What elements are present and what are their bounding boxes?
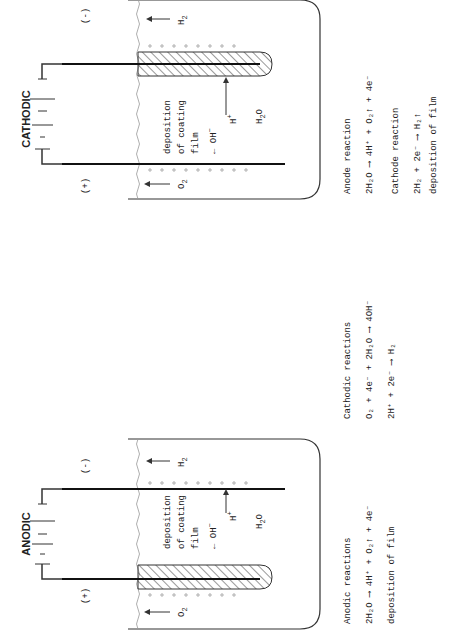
anodic-h2-label: H2 — [177, 457, 189, 467]
cathodic-reaction-1: O₂ + 4e⁻ + 2H₂O ⟶ 4OH⁻ — [365, 300, 375, 419]
anodic-minus-label: (-) — [81, 458, 91, 474]
electrodeposition-diagram: ANODIC (+) (-) — [0, 0, 460, 639]
cathodic-o2-label: O2 — [177, 179, 189, 189]
cathodic-deposition-line3: film — [191, 132, 201, 154]
anodic-water-label: H2O — [255, 514, 267, 529]
cathodic-hplus-label: H+ — [226, 114, 239, 124]
cathodic-cell: CATHODIC (+) (-) — [20, 0, 439, 199]
anodic-hplus-label: H+ — [226, 511, 239, 521]
anodic-reaction-1: 2H₂O ⟶ 4H⁺ + O₂↑ + 4e⁻ — [365, 505, 375, 624]
anodic-liquid-surface — [137, 439, 140, 629]
anodic-oh-label: ← OH− — [206, 523, 219, 549]
anodic-title: ANODIC — [20, 512, 32, 555]
cathodic-deposition-line2: of coating — [177, 100, 187, 154]
cathodic-battery-icon — [30, 64, 62, 164]
anodic-reaction-2: deposition of film — [387, 527, 397, 624]
cathode-reaction-title: Cathode reaction — [391, 108, 401, 194]
anodic-deposition-line3: film — [191, 527, 201, 549]
anodic-tank — [128, 439, 320, 629]
anodic-deposition-line1: deposition — [163, 495, 173, 549]
cathode-reaction-1: 2H₂ + 2e⁻ ⟶ H₂↑ — [413, 113, 423, 194]
anodic-reactions-title: Anodic reactions — [343, 538, 353, 624]
cathodic-h2-label: H2 — [177, 15, 189, 25]
anode-reaction-title: Anode reaction — [343, 118, 353, 194]
cathodic-tank — [128, 0, 320, 199]
anodic-plus-label: (+) — [81, 588, 91, 604]
anodic-o2-label: O2 — [177, 607, 189, 617]
anodic-coated-electrode — [138, 565, 272, 589]
anodic-cell: ANODIC (+) (-) — [20, 300, 397, 629]
cathodic-liquid-surface — [137, 0, 140, 199]
cathodic-deposition-line1: deposition — [163, 100, 173, 154]
anode-reaction-1: 2H₂O ⟶ 4H⁺ + O₂↑ + 4e⁻ — [365, 75, 375, 194]
cathodic-oh-label: ← OH− — [206, 128, 219, 154]
cathodic-water-label: H2O — [255, 109, 267, 124]
cathodic-minus-label: (-) — [81, 8, 91, 24]
cathodic-reaction-2: 2H⁺ + 2e⁻ ⟶ H₂ — [387, 343, 397, 419]
cathodic-reactions-title: Cathodic reactions — [343, 322, 353, 419]
anodic-battery-icon — [30, 489, 62, 579]
cathodic-plus-label: (+) — [81, 178, 91, 194]
anodic-deposition-line2: of coating — [177, 495, 187, 549]
cathode-reaction-2: deposition of film — [429, 97, 439, 194]
